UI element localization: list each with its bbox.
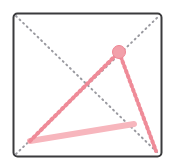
vertex-point-marker[interactable]: [113, 46, 126, 59]
geometry-figure: [0, 0, 174, 167]
diagram-canvas: [0, 0, 174, 167]
